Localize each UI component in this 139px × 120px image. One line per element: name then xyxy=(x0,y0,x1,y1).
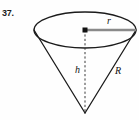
cone-right-slant-line xyxy=(85,30,136,113)
cone-figure: 37. r h R xyxy=(0,0,139,120)
cone-center-point-dot xyxy=(83,28,88,33)
slant-height-label: R xyxy=(115,66,121,76)
height-label: h xyxy=(75,65,80,75)
cone-diagram-svg xyxy=(0,0,139,120)
radius-label: r xyxy=(107,16,111,26)
